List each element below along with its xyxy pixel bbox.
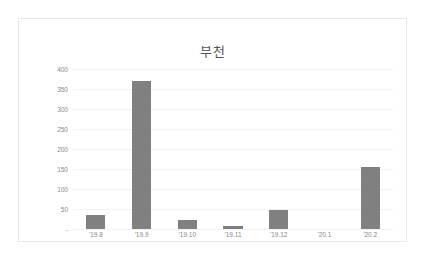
bar-slot xyxy=(119,69,165,229)
x-axis-tick-label: '19.9 xyxy=(119,231,165,238)
bar-slot xyxy=(302,69,348,229)
bar-slot xyxy=(347,69,393,229)
bar[interactable] xyxy=(86,215,105,229)
plot-area: 40035030025020015010050- xyxy=(73,69,393,229)
bar[interactable] xyxy=(361,167,380,229)
gridline xyxy=(73,229,393,230)
bar[interactable] xyxy=(269,210,288,229)
y-axis-tick-label: 250 xyxy=(57,126,68,133)
y-axis-tick-label: 100 xyxy=(57,186,68,193)
bar-series xyxy=(73,69,393,229)
chart-title: 부천 xyxy=(19,41,406,60)
x-axis-tick-label: '19.10 xyxy=(164,231,210,238)
x-axis: '19.8'19.9'19.10'19.11'19.12'20.1'20.2 xyxy=(73,231,393,238)
bar[interactable] xyxy=(178,220,197,229)
y-axis-tick-label: 50 xyxy=(61,206,68,213)
x-axis-tick-label: '20.2 xyxy=(347,231,393,238)
y-axis-tick-label: 350 xyxy=(57,86,68,93)
y-axis-tick-label: 200 xyxy=(57,146,68,153)
x-axis-tick-label: '19.11 xyxy=(210,231,256,238)
x-axis-tick-label: '19.8 xyxy=(73,231,119,238)
x-axis-tick-label: '19.12 xyxy=(256,231,302,238)
y-axis-tick-label: 300 xyxy=(57,106,68,113)
bar-slot xyxy=(210,69,256,229)
bar[interactable] xyxy=(132,81,151,229)
chart-container: 부천 40035030025020015010050- '19.8'19.9'1… xyxy=(18,18,407,242)
y-axis-tick-label: 150 xyxy=(57,166,68,173)
bar[interactable] xyxy=(223,226,242,229)
bar-slot xyxy=(73,69,119,229)
y-axis-tick-label: - xyxy=(66,226,68,233)
bar-slot xyxy=(256,69,302,229)
bar-slot xyxy=(164,69,210,229)
y-axis-tick-label: 400 xyxy=(57,66,68,73)
x-axis-tick-label: '20.1 xyxy=(302,231,348,238)
